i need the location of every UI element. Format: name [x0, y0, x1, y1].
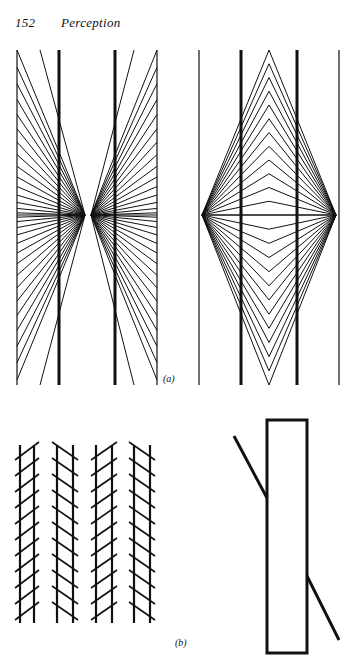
illusion-figures [0, 0, 354, 664]
hering-illusion [17, 50, 157, 385]
figure-label-b: (b) [175, 637, 187, 648]
wundt-illusion [199, 50, 339, 385]
poggendorff-illusion [234, 420, 339, 653]
figure-label-a: (a) [163, 373, 175, 384]
zollner-illusion [15, 442, 155, 623]
